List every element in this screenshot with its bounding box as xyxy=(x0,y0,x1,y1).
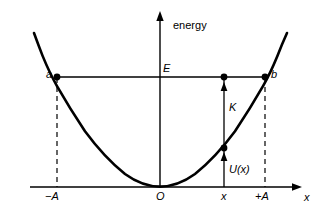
x-tick-position: x xyxy=(221,191,227,202)
x-tick-origin: O xyxy=(156,191,165,202)
potential-energy-arrowhead xyxy=(221,152,228,161)
marker-dot-b xyxy=(262,74,269,81)
x-tick-pos-amplitude: +A xyxy=(255,191,269,202)
x-tick-neg-amplitude: −A xyxy=(45,191,59,202)
x-axis-label: x xyxy=(304,192,310,203)
kinetic-energy-arrowhead xyxy=(221,82,228,91)
potential-energy-label: U(x) xyxy=(229,164,250,175)
marker-dot-a xyxy=(54,74,61,81)
energy-diagram-canvas xyxy=(0,0,324,211)
y-axis xyxy=(156,11,163,187)
marker-dot-potential-at-x xyxy=(221,145,228,152)
total-energy-label: E xyxy=(163,63,170,74)
energy-diagram-figure: energy x a b E K U(x) −A O x +A xyxy=(0,0,324,211)
point-a-label: a xyxy=(46,69,52,80)
point-b-label: b xyxy=(271,69,277,80)
marker-dot-total-energy-at-x xyxy=(221,74,228,81)
kinetic-energy-label: K xyxy=(229,102,236,113)
y-axis-label: energy xyxy=(173,20,207,31)
